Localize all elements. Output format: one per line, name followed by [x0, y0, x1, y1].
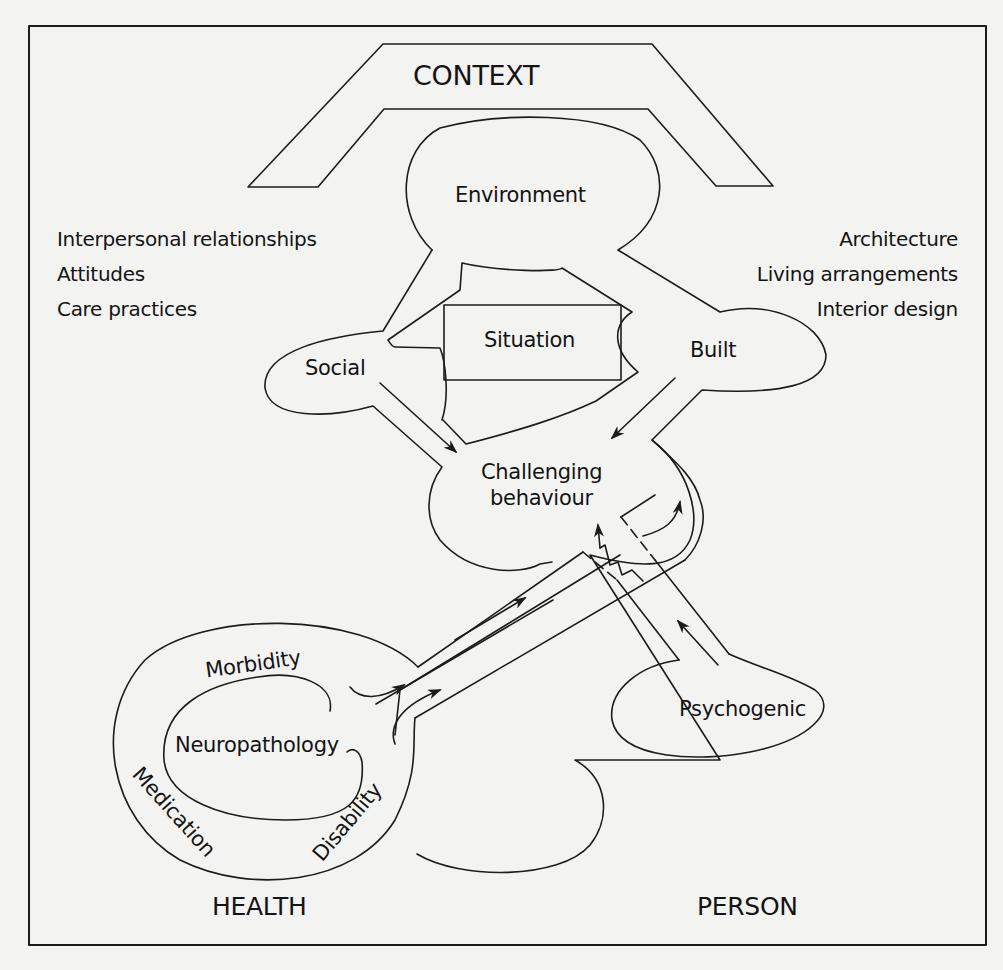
right-context-item-2: Interior design — [817, 292, 958, 327]
built-label: Built — [690, 338, 736, 362]
diagram-canvas — [0, 0, 1003, 970]
feedback-arrow — [643, 502, 680, 536]
health-arrow-upper — [350, 685, 404, 697]
person-title: PERSON — [697, 892, 798, 921]
neuropathology-label: Neuropathology — [175, 733, 339, 757]
context-title: CONTEXT — [413, 60, 539, 91]
arrow-person-to-behaviour — [678, 621, 718, 665]
social-label: Social — [305, 356, 365, 380]
left-context-item-1: Attitudes — [57, 257, 145, 292]
person-tube-right — [655, 560, 729, 654]
behaviour-blob-right — [652, 440, 703, 560]
social-lobe — [265, 250, 552, 570]
behaviour-label-line2: behaviour — [490, 486, 593, 510]
right-context-item-0: Architecture — [839, 222, 958, 257]
left-context-item-0: Interpersonal relationships — [57, 222, 317, 257]
right-context-item-1: Living arrangements — [757, 257, 958, 292]
dashed-crossover-right — [621, 517, 655, 560]
health-tube-upper — [418, 552, 583, 667]
zigzag-arrow — [598, 525, 600, 548]
behaviour-label-line1: Challenging — [481, 460, 602, 484]
person-tube-left — [617, 580, 679, 660]
situation-label: Situation — [484, 328, 575, 352]
arrow-social-to-behaviour — [380, 383, 456, 452]
arrow-built-to-behaviour — [612, 378, 675, 438]
crossover-top — [621, 495, 655, 517]
health-title: HEALTH — [212, 892, 306, 921]
left-context-item-2: Care practices — [57, 292, 197, 327]
dashed-crossover-left — [583, 552, 617, 580]
environment-label: Environment — [455, 183, 586, 207]
psychogenic-label: Psychogenic — [679, 697, 806, 721]
environment-inner-left — [388, 263, 638, 444]
environment-outline — [395, 117, 826, 872]
